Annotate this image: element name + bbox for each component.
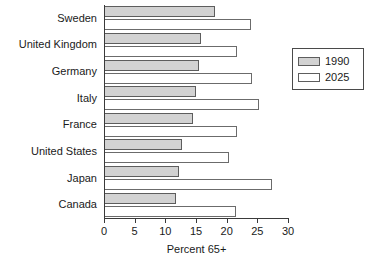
y-axis-label-germany: Germany <box>0 58 101 85</box>
legend-item-1990: 1990 <box>298 53 358 69</box>
x-axis-title: Percent 65+ <box>104 243 289 255</box>
y-axis-label-france: France <box>0 112 101 139</box>
category-label-text: Italy <box>77 93 97 104</box>
category-label-text: Canada <box>58 199 97 210</box>
plot-area <box>104 5 289 218</box>
x-tick-label-25: 25 <box>251 225 263 237</box>
bar-united-kingdom-1990 <box>105 33 201 44</box>
bar-france-2025 <box>105 126 237 137</box>
legend-label-text: 2025 <box>325 72 349 83</box>
y-axis-category-labels: SwedenUnited KingdomGermanyItalyFranceUn… <box>0 5 101 218</box>
bar-group <box>105 58 289 85</box>
bar-group <box>105 138 289 165</box>
x-tick-25 <box>257 218 258 223</box>
x-tick-5 <box>135 218 136 223</box>
y-axis-label-japan: Japan <box>0 165 101 192</box>
bar-canada-1990 <box>105 193 176 204</box>
legend-item-2025: 2025 <box>298 69 358 85</box>
category-label-text: Sweden <box>57 13 97 24</box>
bar-chart: SwedenUnited KingdomGermanyItalyFranceUn… <box>0 0 373 277</box>
y-axis-label-canada: Canada <box>0 191 101 218</box>
bar-japan-2025 <box>105 179 272 190</box>
white-swatch <box>298 73 320 82</box>
bar-united-kingdom-2025 <box>105 46 237 57</box>
chart-legend: 19902025 <box>292 48 364 90</box>
bar-group <box>105 32 289 59</box>
category-label-text: United States <box>31 146 97 157</box>
bar-group <box>105 5 289 32</box>
bar-sweden-2025 <box>105 19 251 30</box>
category-label-text: France <box>63 119 97 130</box>
bar-germany-1990 <box>105 60 199 71</box>
x-tick-label-15: 15 <box>190 225 202 237</box>
bar-canada-2025 <box>105 206 236 217</box>
bar-italy-2025 <box>105 99 259 110</box>
gray-swatch <box>298 57 320 66</box>
y-axis-label-italy: Italy <box>0 85 101 112</box>
category-label-text: Japan <box>67 173 97 184</box>
bar-united-states-2025 <box>105 152 229 163</box>
x-tick-30 <box>288 218 289 223</box>
category-label-text: Germany <box>52 66 97 77</box>
x-tick-label-0: 0 <box>101 225 107 237</box>
bar-sweden-1990 <box>105 6 215 17</box>
x-tick-label-20: 20 <box>221 225 233 237</box>
x-axis-ticks <box>104 218 289 223</box>
x-axis-tick-labels: 051015202530 <box>104 225 289 239</box>
x-tick-label-5: 5 <box>132 225 138 237</box>
x-tick-20 <box>227 218 228 223</box>
y-axis-label-sweden: Sweden <box>0 5 101 32</box>
legend-label-text: 1990 <box>325 56 349 67</box>
bar-france-1990 <box>105 113 193 124</box>
x-tick-15 <box>196 218 197 223</box>
x-tick-0 <box>104 218 105 223</box>
x-tick-label-10: 10 <box>159 225 171 237</box>
bar-japan-1990 <box>105 166 179 177</box>
y-axis-label-united-states: United States <box>0 138 101 165</box>
bar-group <box>105 112 289 139</box>
bar-group <box>105 85 289 112</box>
category-label-text: United Kingdom <box>19 39 97 50</box>
bar-united-states-1990 <box>105 139 182 150</box>
x-tick-label-30: 30 <box>282 225 294 237</box>
bar-italy-1990 <box>105 86 196 97</box>
bar-group <box>105 191 289 218</box>
x-tick-10 <box>165 218 166 223</box>
bar-germany-2025 <box>105 73 252 84</box>
bar-group <box>105 165 289 192</box>
y-axis-label-united-kingdom: United Kingdom <box>0 32 101 59</box>
